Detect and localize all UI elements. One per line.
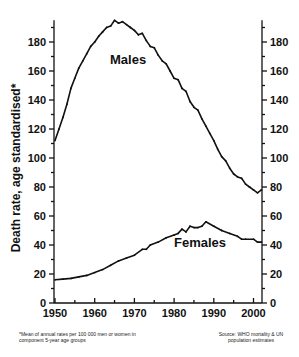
data-point [241,177,243,179]
y-tick-label-left: 100 [28,152,46,164]
data-point [173,77,175,79]
data-point [94,272,96,274]
y-tick-label-right: 160 [270,65,288,77]
y-tick-label-left: 40 [34,239,46,251]
data-point [145,248,147,250]
data-point [98,35,100,37]
data-point [181,88,183,90]
data-point [169,70,171,72]
y-tick-label-right: 80 [270,181,282,193]
data-point [213,140,215,142]
data-point [82,60,84,62]
data-point [197,109,199,111]
data-point [213,225,215,227]
females-label: Females [174,235,226,250]
data-point [189,225,191,227]
data-point [245,238,247,240]
data-point [54,279,56,281]
y-tick-label-right: 0 [270,297,276,309]
data-point [185,90,187,92]
data-point [181,228,183,230]
y-axis-label: Death rate, age standardised* [9,83,23,252]
y-tick-label-left: 80 [34,181,46,193]
data-point [149,46,151,48]
x-tick-label: 1990 [202,307,226,319]
data-point [138,34,140,36]
data-point [62,278,64,280]
data-point [94,41,96,43]
data-point [110,264,112,266]
x-tick-label: 1960 [82,307,106,319]
data-point [145,40,147,42]
y-tick-label-right: 100 [270,152,288,164]
data-point [193,106,195,108]
footnote: *Mean of annual rates per 100 000 men or… [19,331,149,343]
data-point [58,128,60,130]
data-point [118,260,120,262]
data-point [205,221,207,223]
data-point [102,269,104,271]
x-tick-label: 1970 [122,307,146,319]
females-line [55,222,261,280]
data-point [221,156,223,158]
source-note: Source: WHO mortality & UN population es… [211,331,291,343]
data-point [102,31,104,33]
data-point [201,225,203,227]
y-tick-label-right: 60 [270,210,282,222]
data-point [257,192,259,194]
data-point [134,30,136,32]
data-point [201,118,203,120]
data-point [86,53,88,55]
data-point [209,132,211,134]
males-label: Males [110,52,146,67]
data-point [157,54,159,56]
data-point [237,176,239,178]
data-point [165,63,167,65]
data-point [78,67,80,69]
data-point [233,173,235,175]
data-point [86,275,88,277]
y-tick-label-right: 40 [270,239,282,251]
data-point [237,235,239,237]
x-tick-label: 1950 [43,307,67,319]
data-point [217,148,219,150]
death-rate-chart: 0020204040606080801001001201201401401601… [0,0,299,357]
y-tick-label-left: 160 [28,65,46,77]
data-point [165,237,167,239]
y-tick-label-left: 180 [28,36,46,48]
data-point [90,46,92,48]
data-point [78,276,80,278]
y-tick-label-right: 180 [270,36,288,48]
y-tick-label-right: 20 [270,268,282,280]
data-point [126,24,128,26]
data-point [193,227,195,229]
y-tick-label-left: 140 [28,94,46,106]
data-point [153,47,155,49]
data-point [197,227,199,229]
data-point [261,189,263,191]
data-point [225,160,227,162]
axes: 0020204040606080801001001201201401401601… [28,20,289,319]
data-point [70,88,72,90]
data-point [114,19,116,21]
data-point [130,27,132,29]
data-point [74,77,76,79]
data-lines [54,19,262,280]
data-point [205,125,207,127]
data-point [221,230,223,232]
data-point [106,27,108,29]
data-point [245,183,247,185]
x-tick-label: 2000 [241,307,265,319]
y-tick-label-right: 140 [270,94,288,106]
data-point [134,254,136,256]
data-point [126,257,128,259]
data-point [185,231,187,233]
data-point [241,238,243,240]
data-point [118,22,120,24]
data-point [229,233,231,235]
y-tick-label-left: 20 [34,268,46,280]
data-point [62,117,64,119]
males-line [55,20,261,193]
data-point [257,241,259,243]
data-point [253,238,255,240]
